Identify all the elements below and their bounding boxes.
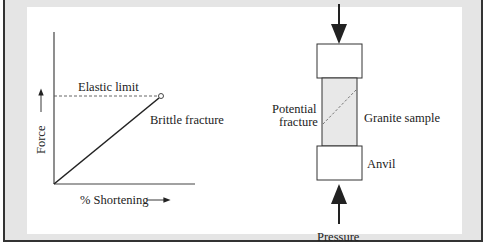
potential-label-line2: fracture bbox=[279, 115, 318, 129]
elastic-limit-label: Elastic limit bbox=[78, 80, 139, 94]
pressure-label: Pressure bbox=[317, 230, 360, 244]
force-shortening-plot: Elastic limit Brittle fracture Force % S… bbox=[34, 32, 224, 207]
force-axis-label: Force bbox=[34, 125, 48, 154]
granite-sample-label: Granite sample bbox=[364, 111, 440, 125]
shortening-axis-label: % Shortening bbox=[80, 193, 149, 207]
diagram-svg: Elastic limit Brittle fracture Force % S… bbox=[0, 0, 487, 248]
bottom-anvil bbox=[317, 146, 362, 180]
compression-test-diagram: Potential fracture Granite sample Anvil … bbox=[272, 4, 440, 244]
fracture-point bbox=[159, 94, 164, 99]
potential-label-line1: Potential bbox=[272, 102, 317, 116]
granite-sample bbox=[322, 78, 357, 146]
anvil-label: Anvil bbox=[367, 157, 396, 171]
brittle-fracture-line bbox=[54, 98, 159, 184]
top-anvil bbox=[317, 44, 362, 78]
brittle-fracture-label: Brittle fracture bbox=[150, 113, 224, 127]
